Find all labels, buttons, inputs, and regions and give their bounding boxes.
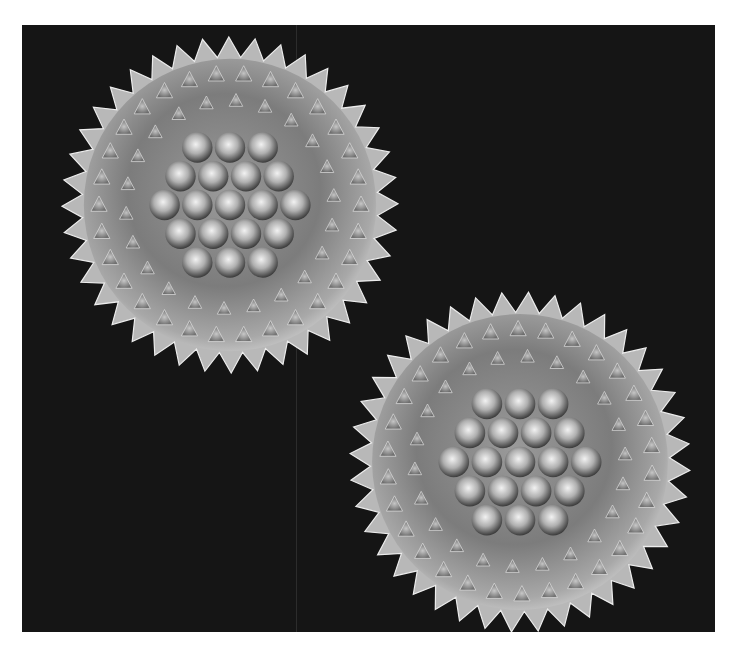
- upper-left-grain: [62, 37, 398, 373]
- micrograph-frame: [22, 25, 715, 632]
- pollen-scene: [22, 25, 715, 632]
- lower-right-grain: [350, 292, 690, 632]
